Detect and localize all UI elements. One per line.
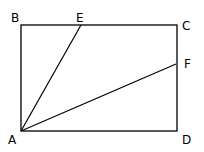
- geometry-diagram: B E C F A D: [0, 0, 204, 152]
- rectangle-abcd: [21, 25, 177, 131]
- label-e: E: [76, 11, 84, 25]
- segment-af: [21, 64, 176, 131]
- label-f: F: [184, 57, 191, 71]
- label-b: B: [11, 11, 19, 25]
- label-c: C: [182, 19, 190, 33]
- label-a: A: [8, 133, 17, 147]
- label-d: D: [182, 133, 191, 147]
- segment-ae: [21, 25, 81, 131]
